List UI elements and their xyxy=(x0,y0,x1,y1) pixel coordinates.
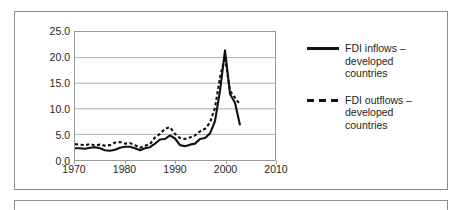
x-axis: 19701980199020002010 xyxy=(74,164,276,184)
caption-frame xyxy=(14,200,448,210)
chart-frame: 0.05.010.015.020.025.0 19701980199020002… xyxy=(14,11,448,190)
series-line-outflows xyxy=(75,57,240,148)
legend-entry-inflows: FDI inflows – developed countries xyxy=(307,42,447,80)
x-tick-label: 1980 xyxy=(113,164,136,175)
x-tick-label: 2000 xyxy=(214,164,237,175)
legend-swatch-solid-line-icon xyxy=(307,47,339,50)
chart-panel: 0.05.010.015.020.025.0 19701980199020002… xyxy=(15,12,449,191)
series-line-inflows xyxy=(75,50,240,150)
x-tick-label: 1990 xyxy=(163,164,186,175)
x-tick-label: 2010 xyxy=(264,164,287,175)
legend-label-outflows: FDI outflows – developed countries xyxy=(345,94,447,132)
y-tick-label: 20.0 xyxy=(18,52,70,63)
legend-entry-outflows: FDI outflows – developed countries xyxy=(307,94,447,132)
y-tick-label: 10.0 xyxy=(18,104,70,115)
series-lines xyxy=(75,32,275,160)
legend-label-inflows: FDI inflows – developed countries xyxy=(345,42,447,80)
plot-area xyxy=(74,31,276,161)
y-tick-label: 5.0 xyxy=(18,130,70,141)
chart-legend: FDI inflows – developed countries FDI ou… xyxy=(307,42,447,145)
y-tick-label: 15.0 xyxy=(18,78,70,89)
x-tick-label: 1970 xyxy=(62,164,85,175)
legend-swatch-dashed-line-icon xyxy=(307,99,339,102)
y-axis: 0.05.010.015.020.025.0 xyxy=(15,31,70,161)
y-tick-label: 25.0 xyxy=(18,26,70,37)
figure-root: 0.05.010.015.020.025.0 19701980199020002… xyxy=(0,0,462,210)
